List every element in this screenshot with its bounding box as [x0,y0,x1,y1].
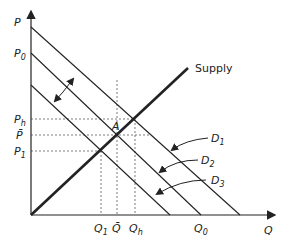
price-label-p1: P1 [14,145,26,160]
d2-pointer-arrow [160,160,198,172]
quantity-label-q1: Q1 [94,222,108,237]
quantity-label-qbar: Q̄ [112,222,121,235]
supply-curve [31,68,188,215]
d3-label: D3 [211,174,225,189]
price-label-ph: Ph [14,113,26,128]
d3-pointer-arrow [157,180,206,194]
y-axis-label: P [14,16,21,29]
supply-label: Supply [195,62,233,75]
quantity-label-qh: Qh [129,222,143,237]
d1-label: D1 [211,132,225,147]
price-label-p0: P0 [14,47,26,62]
d2-label: D2 [201,154,215,169]
d1-pointer-arrow [172,138,208,150]
guide-lines [31,80,150,215]
point-a-label: A [111,120,120,133]
x-axis-label: Q [264,224,273,237]
supply-demand-diagram: P Q P0 Ph P̄ P1 Q1 Q̄ Qh Q0 Supply D1 D2… [0,0,288,245]
quantity-label-q0: Q0 [194,222,208,237]
shift-arrow-icon-down [55,92,63,101]
price-label-pbar: P̄ [16,129,23,142]
